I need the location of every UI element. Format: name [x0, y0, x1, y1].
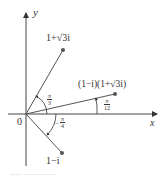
y-axis-label: y	[33, 7, 38, 18]
angle-label-pi-over-12: π 12	[104, 98, 110, 111]
vector-product	[26, 94, 115, 114]
origin-label: 0	[17, 117, 22, 127]
angle-arc-pi-over-12	[96, 98, 97, 114]
point-label-1-plus-sqrt3i: 1+√3i	[46, 33, 70, 43]
angle-label-minus-pi-over-4: π 4	[60, 116, 65, 129]
figure-caption: —— ——————	[10, 171, 56, 177]
x-axis-label: x	[150, 118, 154, 128]
angle-label-pi-over-3: π 3	[47, 93, 52, 106]
angle-sign-minus: −	[55, 121, 59, 128]
point-label-1-minus-i: 1−i	[46, 156, 59, 166]
point-label-product: (1−i)(1+√3i)	[78, 80, 126, 90]
